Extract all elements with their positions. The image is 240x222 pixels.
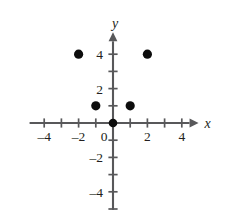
data-point xyxy=(74,50,83,59)
y-axis-tick-label: 4 xyxy=(96,47,103,62)
x-axis-tick-label: 0 xyxy=(101,129,108,144)
data-point xyxy=(143,50,152,59)
y-axis-label: y xyxy=(110,16,119,31)
origin-point xyxy=(109,119,118,128)
y-axis-arrow-icon xyxy=(109,32,118,41)
x-axis-tick-label: 4 xyxy=(178,129,185,144)
y-axis-tick-label: –4 xyxy=(89,185,104,200)
data-point xyxy=(91,101,100,110)
x-axis-tick-label: –4 xyxy=(36,129,51,144)
data-point xyxy=(126,101,135,110)
scatter-plot-figure: –4–202442–2–4xy xyxy=(0,0,240,222)
y-axis-tick-label: 2 xyxy=(96,82,103,97)
y-axis-tick-label: –2 xyxy=(89,150,104,165)
x-axis-tick-label: –2 xyxy=(71,129,86,144)
x-axis-arrow-icon xyxy=(190,119,199,128)
coordinate-plane-svg: –4–202442–2–4xy xyxy=(0,0,240,222)
x-axis-tick-label: 2 xyxy=(144,129,151,144)
x-axis-label: x xyxy=(204,116,212,131)
